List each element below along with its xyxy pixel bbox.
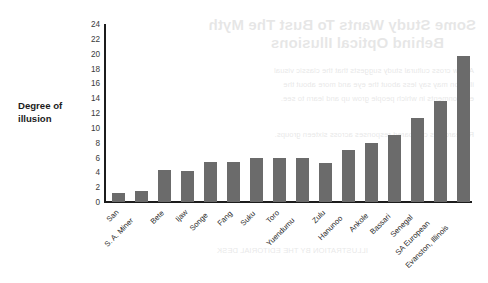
y-tick-label: 18 xyxy=(76,64,100,73)
y-axis-tick-labels: 024681012141618202224 xyxy=(74,24,100,202)
bar xyxy=(365,143,379,202)
x-tick-label-text: Bete xyxy=(148,209,165,226)
x-tick-label-text: S. A. Miner xyxy=(102,216,135,249)
x-tick-label-text: San xyxy=(104,208,120,224)
y-tick-label: 12 xyxy=(76,109,100,118)
bar xyxy=(204,162,218,202)
y-tick-label: 16 xyxy=(76,79,100,88)
bar xyxy=(227,162,241,202)
bar-chart: Degree of illusion 024681012141618202224… xyxy=(0,0,488,283)
bar xyxy=(296,158,310,203)
bar xyxy=(273,158,287,203)
y-tick-label: 0 xyxy=(76,198,100,207)
y-tick-label: 24 xyxy=(76,20,100,29)
x-tick-label-text: Ankole xyxy=(347,211,370,234)
bar xyxy=(388,135,402,202)
x-tick-label-text: Ijaw xyxy=(173,208,189,224)
x-tick-label-text: Zulu xyxy=(310,208,327,225)
x-axis-tick-labels: SanS. A. MinerBeteIjawSongeFangSukuToroY… xyxy=(104,203,472,281)
x-tick-label-text: Fang xyxy=(215,209,234,228)
x-tick-label-text: Suku xyxy=(238,209,257,228)
y-tick-label: 14 xyxy=(76,94,100,103)
x-tick-label-text: Toro xyxy=(264,208,281,225)
plot-area xyxy=(104,24,472,202)
y-tick-label: 4 xyxy=(76,168,100,177)
y-tick-label: 8 xyxy=(76,138,100,147)
y-tick-label: 6 xyxy=(76,153,100,162)
y-tick-label: 22 xyxy=(76,34,100,43)
bar xyxy=(411,118,425,202)
y-tick-label: 10 xyxy=(76,123,100,132)
y-tick-label: 2 xyxy=(76,183,100,192)
y-tick-label: 20 xyxy=(76,49,100,58)
bar xyxy=(434,101,448,202)
bar xyxy=(342,150,356,202)
x-tick-label-text: Songe xyxy=(187,211,209,233)
bar xyxy=(250,158,264,203)
bar xyxy=(457,56,471,202)
